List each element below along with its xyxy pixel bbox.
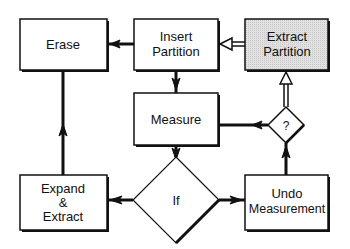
node-erase-label: Erase bbox=[46, 37, 80, 52]
node-expand-label-1: Expand bbox=[41, 181, 85, 196]
node-expand-label-3: Extract bbox=[43, 209, 84, 224]
arrowhead-to-erase bbox=[110, 40, 120, 48]
node-undo-label-1: Undo bbox=[271, 186, 302, 201]
node-undo-measurement: Undo Measurement bbox=[245, 175, 330, 232]
node-extract-partition: Extract Partition bbox=[245, 19, 330, 72]
node-insert-label-2: Partition bbox=[152, 44, 200, 59]
node-undo-label-2: Measurement bbox=[249, 202, 326, 216]
node-extract-label-2: Partition bbox=[263, 44, 311, 59]
node-measure: Measure bbox=[134, 93, 220, 147]
flow-diagram: Erase Insert Partition Extract Partition… bbox=[0, 0, 350, 249]
node-insert-label-1: Insert bbox=[160, 29, 193, 44]
node-question-diamond: ? bbox=[268, 107, 304, 143]
node-erase: Erase bbox=[20, 19, 109, 72]
node-question-label: ? bbox=[283, 119, 290, 133]
hollow-arrowhead-to-insert bbox=[220, 38, 232, 50]
arrowhead-question-to-measure bbox=[252, 121, 262, 129]
hollow-arrowhead-to-extract bbox=[280, 72, 292, 84]
node-if-label: If bbox=[172, 193, 180, 208]
node-expand-label-2: & bbox=[59, 195, 68, 210]
node-if-diamond: If bbox=[133, 157, 219, 243]
node-extract-label-1: Extract bbox=[267, 29, 308, 44]
node-measure-label: Measure bbox=[151, 112, 202, 127]
node-insert-partition: Insert Partition bbox=[134, 19, 220, 72]
node-expand-extract: Expand & Extract bbox=[20, 175, 109, 232]
